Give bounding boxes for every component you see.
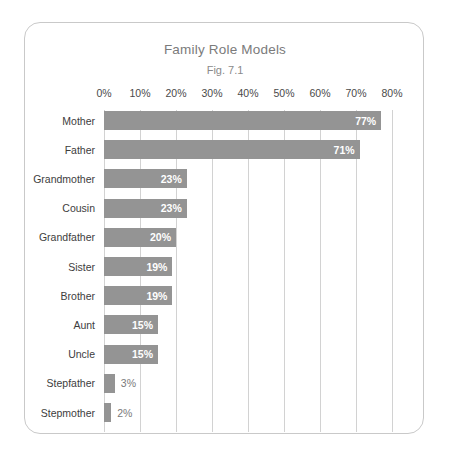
bar-value-label: 15% xyxy=(132,348,153,360)
x-tick-label: 10% xyxy=(129,87,150,99)
category-label: Cousin xyxy=(62,202,95,214)
category-label: Uncle xyxy=(68,348,95,360)
bar xyxy=(104,403,111,422)
gridline-80 xyxy=(392,110,393,432)
bar: 23% xyxy=(104,169,187,188)
category-label: Father xyxy=(65,144,95,156)
chart-title: Family Role Models xyxy=(25,42,425,57)
bar: 19% xyxy=(104,286,172,305)
bar-value-label: 2% xyxy=(117,407,132,419)
bar xyxy=(104,374,115,393)
x-tick-label: 60% xyxy=(309,87,330,99)
bar: 71% xyxy=(104,140,360,159)
bar-row: Grandmother23% xyxy=(104,169,392,188)
bar-value-label: 19% xyxy=(146,261,167,273)
category-label: Sister xyxy=(68,261,95,273)
bar-value-label: 23% xyxy=(161,173,182,185)
bar-value-label: 20% xyxy=(150,231,171,243)
bar-row: Stepmother2% xyxy=(104,403,392,422)
bar-row: Mother77% xyxy=(104,111,392,130)
category-label: Grandmother xyxy=(33,173,95,185)
bar-row: Brother19% xyxy=(104,286,392,305)
bar-row: Sister19% xyxy=(104,257,392,276)
bar: 15% xyxy=(104,315,158,334)
category-label: Brother xyxy=(61,290,95,302)
bar-value-label: 19% xyxy=(146,290,167,302)
category-label: Stepfather xyxy=(47,377,95,389)
bar-value-label: 71% xyxy=(334,144,355,156)
chart-subtitle: Fig. 7.1 xyxy=(25,64,425,76)
bar-row: Aunt15% xyxy=(104,315,392,334)
x-tick-label: 20% xyxy=(165,87,186,99)
plot-area: 0%10%20%30%40%50%60%70%80% Mother77%Fath… xyxy=(104,87,392,432)
category-label: Grandfather xyxy=(39,231,95,243)
chart-card: Family Role Models Fig. 7.1 0%10%20%30%4… xyxy=(24,22,424,434)
bar: 15% xyxy=(104,345,158,364)
bar-value-label: 3% xyxy=(121,377,136,389)
bar: 77% xyxy=(104,111,381,130)
bar-row: Grandfather20% xyxy=(104,228,392,247)
bar-row: Stepfather3% xyxy=(104,374,392,393)
x-tick-label: 40% xyxy=(237,87,258,99)
bar-row: Uncle15% xyxy=(104,345,392,364)
x-tick-label: 80% xyxy=(381,87,402,99)
bar: 19% xyxy=(104,257,172,276)
bar-row: Father71% xyxy=(104,140,392,159)
x-tick-label: 30% xyxy=(201,87,222,99)
bar-value-label: 23% xyxy=(161,202,182,214)
bar: 23% xyxy=(104,199,187,218)
bar-value-label: 77% xyxy=(355,115,376,127)
x-tick-label: 0% xyxy=(96,87,111,99)
x-tick-label: 70% xyxy=(345,87,366,99)
x-tick-label: 50% xyxy=(273,87,294,99)
bar-value-label: 15% xyxy=(132,319,153,331)
bar: 20% xyxy=(104,228,176,247)
category-label: Aunt xyxy=(73,319,95,331)
category-label: Mother xyxy=(62,115,95,127)
bar-row: Cousin23% xyxy=(104,199,392,218)
category-label: Stepmother xyxy=(41,407,95,419)
